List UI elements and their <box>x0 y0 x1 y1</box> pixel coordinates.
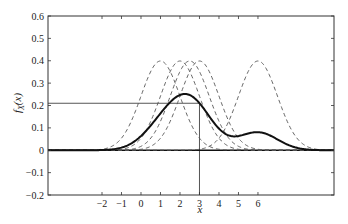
component-curves <box>48 61 334 150</box>
component-curve <box>48 61 334 150</box>
y-tick-label: 0.1 <box>32 122 45 133</box>
x-tick-label: 6 <box>255 198 260 209</box>
plot-frame <box>48 16 334 195</box>
y-tick-label: −0.1 <box>26 167 44 178</box>
y-tick-label: 0.2 <box>32 100 45 111</box>
x-tick-label: 5 <box>236 198 241 209</box>
component-curve <box>48 61 334 150</box>
x-tick-label: −1 <box>116 198 127 209</box>
x-tick-label: 1 <box>158 198 163 209</box>
y-tick-label: 0.6 <box>32 11 45 22</box>
y-tick-label: 0.4 <box>32 55 45 66</box>
x-axis-ticks: −2−10123456 <box>97 16 261 209</box>
y-tick-label: 0.5 <box>32 33 45 44</box>
component-curve <box>48 61 334 150</box>
component-curve <box>48 61 334 150</box>
x-tick-label: 2 <box>177 198 182 209</box>
x-tick-label: −2 <box>97 198 108 209</box>
mixture-line <box>48 94 334 150</box>
y-tick-label: 0 <box>39 145 44 156</box>
reference-lines <box>48 103 334 195</box>
x-tick-label: 4 <box>216 198 221 209</box>
mixture-curve <box>48 94 334 150</box>
chart: −2−10123456 −0.2−0.100.10.20.30.40.50.6 … <box>0 0 348 224</box>
y-tick-label: −0.2 <box>26 190 44 201</box>
svg-text:fX(x): fX(x) <box>11 93 26 113</box>
y-label-arg: (x) <box>11 93 24 106</box>
x-tick-label: 0 <box>138 198 143 209</box>
y-axis-ticks: −0.2−0.100.10.20.30.40.50.6 <box>26 11 334 201</box>
y-tick-label: 0.3 <box>32 78 45 89</box>
y-axis-label: fX(x) <box>11 93 26 113</box>
x-axis-label: x <box>197 203 203 215</box>
component-curve <box>48 61 334 150</box>
